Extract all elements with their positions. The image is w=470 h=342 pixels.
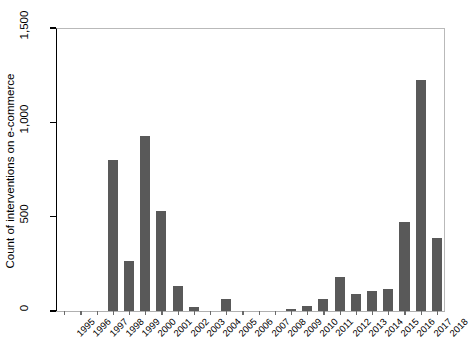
bars-layer — [56, 28, 445, 311]
x-tick — [194, 311, 195, 315]
x-tick — [259, 311, 260, 315]
x-tick — [161, 311, 162, 315]
bar — [432, 238, 442, 311]
x-tick — [80, 311, 81, 315]
y-tick-label: 500 — [0, 208, 48, 220]
bar — [351, 294, 361, 311]
x-tick — [388, 311, 389, 315]
y-tick-label: 1,500 — [0, 19, 48, 31]
bar — [108, 160, 118, 311]
x-tick — [145, 311, 146, 315]
bar — [221, 299, 231, 311]
x-tick — [129, 311, 130, 315]
x-tick — [323, 311, 324, 315]
x-tick — [421, 311, 422, 315]
y-axis-title: Count of interventions on e-commerce — [0, 0, 20, 342]
bar — [140, 136, 150, 311]
x-tick — [404, 311, 405, 315]
bar — [335, 277, 345, 311]
x-tick — [356, 311, 357, 315]
x-tick — [437, 311, 438, 315]
x-tick — [113, 311, 114, 315]
y-tick-label: 1,000 — [0, 113, 48, 125]
y-tick-label: 0 — [0, 302, 48, 314]
bar — [156, 211, 166, 311]
bar — [399, 222, 409, 311]
x-tick — [210, 311, 211, 315]
bar — [416, 80, 426, 311]
x-tick — [275, 311, 276, 315]
bar — [124, 261, 134, 311]
bar — [367, 291, 377, 311]
x-tick — [97, 311, 98, 315]
bar — [173, 286, 183, 311]
bar — [318, 299, 328, 311]
x-tick — [372, 311, 373, 315]
x-tick — [178, 311, 179, 315]
x-tick — [64, 311, 65, 315]
x-tick — [291, 311, 292, 315]
x-tick — [226, 311, 227, 315]
bar — [383, 289, 393, 311]
x-tick — [242, 311, 243, 315]
x-tick — [307, 311, 308, 315]
x-tick — [340, 311, 341, 315]
